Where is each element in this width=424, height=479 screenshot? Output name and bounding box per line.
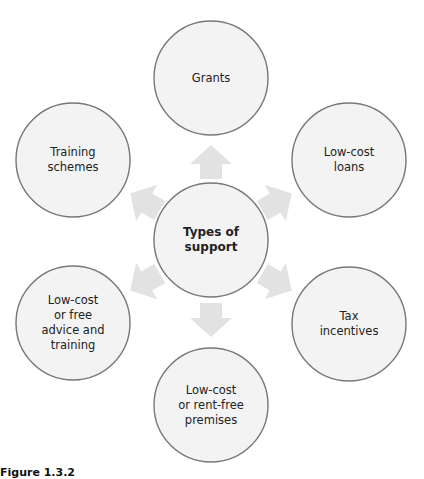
label-line: Low-cost <box>23 293 123 308</box>
figure-caption: Figure 1.3.2 <box>0 466 75 479</box>
label-line: incentives <box>299 324 399 339</box>
label-line: training <box>23 338 123 353</box>
arrow-down-icon <box>190 303 232 337</box>
node-label-tax-incentives: Taxincentives <box>299 309 399 339</box>
label-line: premises <box>161 413 261 428</box>
label-line: Grants <box>161 71 261 86</box>
label-line: loans <box>299 160 399 175</box>
label-line: or free <box>23 308 123 323</box>
label-line: Tax <box>299 309 399 324</box>
label-line: schemes <box>23 160 123 175</box>
label-line: Training <box>23 145 123 160</box>
label-line: support <box>161 240 261 255</box>
node-label-training-schemes: Trainingschemes <box>23 145 123 175</box>
arrow-up-icon <box>190 145 232 179</box>
label-line: or rent-free <box>161 398 261 413</box>
label-line: Low-cost <box>161 383 261 398</box>
label-line: advice and <box>23 323 123 338</box>
node-label-low-cost-premises: Low-costor rent-freepremises <box>161 383 261 428</box>
node-label-types-of-support: Types ofsupport <box>161 225 261 255</box>
node-label-grants: Grants <box>161 71 261 86</box>
node-label-low-cost-advice: Low-costor freeadvice andtraining <box>23 293 123 353</box>
label-line: Types of <box>161 225 261 240</box>
label-line: Low-cost <box>299 145 399 160</box>
node-label-low-cost-loans: Low-costloans <box>299 145 399 175</box>
